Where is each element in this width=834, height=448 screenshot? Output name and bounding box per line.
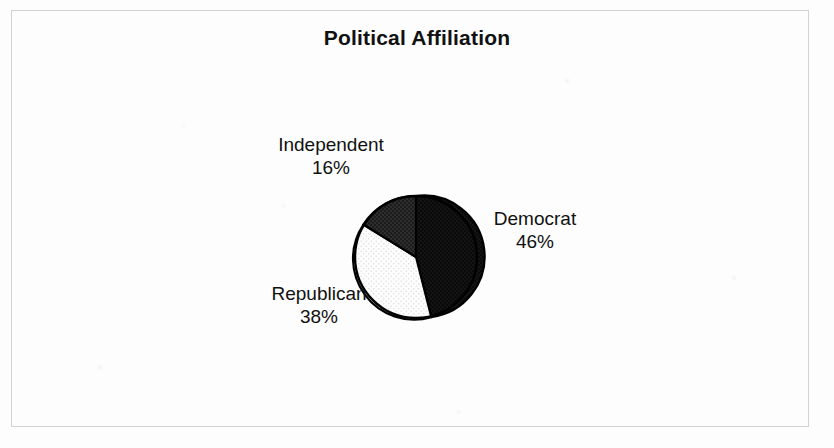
chart-title: Political Affiliation	[0, 26, 834, 50]
pie-label-democrat-name: Democrat	[494, 208, 576, 229]
chart-page: Political Affiliation	[0, 0, 834, 448]
pie-label-republican-name: Republican	[271, 283, 366, 304]
pie-label-independent: Independent 16%	[256, 133, 406, 179]
pie-label-democrat-value: 46%	[470, 230, 600, 253]
pie-label-democrat: Democrat 46%	[470, 207, 600, 253]
pie-label-republican-value: 38%	[244, 305, 394, 328]
pie-label-independent-value: 16%	[256, 156, 406, 179]
pie-label-republican: Republican 38%	[244, 282, 394, 328]
pie-label-independent-name: Independent	[278, 134, 384, 155]
